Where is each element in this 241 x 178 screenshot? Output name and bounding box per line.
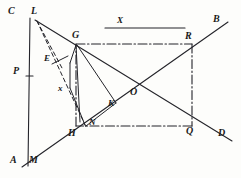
point-label-N: N <box>89 118 96 127</box>
polygon-edge-V2-N <box>70 88 85 125</box>
point-label-E: E <box>44 54 50 63</box>
point-label-D: D <box>218 128 225 138</box>
point-label-G: G <box>72 30 79 40</box>
point-label-Q: Q <box>186 126 193 136</box>
point-label-O: O <box>130 87 137 97</box>
measure-label-x-small: x <box>58 84 63 93</box>
point-label-P: P <box>13 66 19 76</box>
polygon-edge-G-V1 <box>70 45 76 63</box>
geometry-figure: C L B X G R E P x O K N H Q D A M <box>0 0 241 178</box>
point-label-H: H <box>68 128 76 138</box>
point-label-R: R <box>185 31 192 41</box>
point-label-K: K <box>108 99 114 108</box>
point-label-A: A <box>10 155 17 165</box>
tick-line-E <box>52 56 68 64</box>
point-label-B: B <box>213 14 220 24</box>
measure-label-X-top: X <box>117 16 123 25</box>
polygon-edge-G-K <box>77 45 116 103</box>
point-label-M: M <box>29 155 38 165</box>
figure-canvas <box>0 0 241 178</box>
line-segment-CA <box>28 18 30 166</box>
point-label-L: L <box>31 6 37 16</box>
point-label-C: C <box>8 6 15 16</box>
